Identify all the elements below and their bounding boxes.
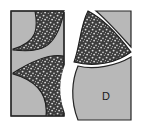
figure-root: D	[0, 0, 142, 131]
piece-d-panel	[73, 57, 131, 120]
left-panel-group	[11, 11, 64, 116]
dissection-figure: D	[0, 0, 142, 131]
piece-d-label: D	[102, 90, 110, 102]
